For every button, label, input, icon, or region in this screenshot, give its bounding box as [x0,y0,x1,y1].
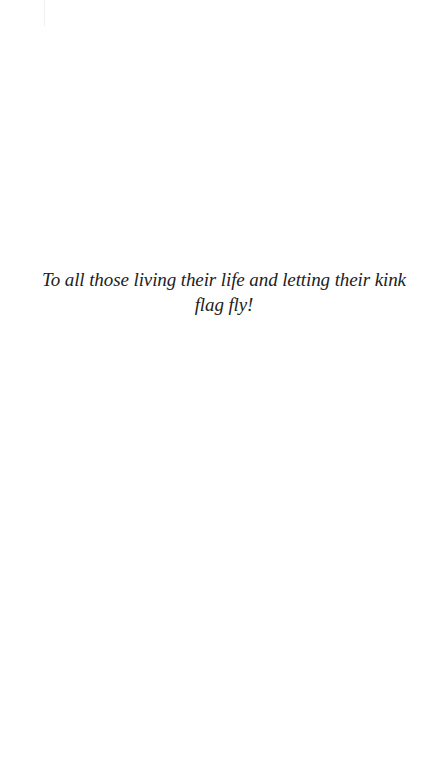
page-edge-artifact [44,0,45,26]
dedication-text: To all those living their life and letti… [30,267,418,317]
